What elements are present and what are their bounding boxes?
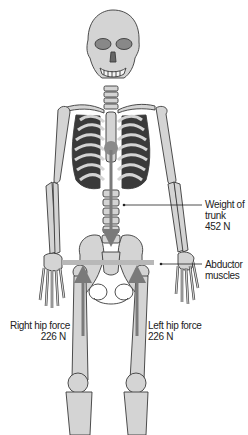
right-hip-force-label: Right hip force 226 N [10, 320, 66, 342]
trunk-label-line2: trunk [205, 210, 244, 221]
trunk-label-value: 452 N [205, 221, 244, 232]
right-arm [40, 106, 70, 308]
trunk-weight-label: Weight of trunk 452 N [205, 199, 244, 232]
trunk-label-line1: Weight of [205, 199, 244, 210]
right-hip-label-value: 226 N [10, 331, 66, 342]
abductor-label-line1: Abductor [205, 259, 243, 270]
abductor-label-line2: muscles [205, 270, 243, 281]
skull [87, 10, 139, 78]
pelvis [79, 235, 142, 304]
right-hip-label-line1: Right hip force [10, 320, 66, 331]
left-hip-label-value: 226 N [148, 331, 202, 342]
abductor-label: Abductor muscles [205, 259, 243, 281]
left-hip-force-label: Left hip force 226 N [148, 320, 202, 342]
left-clavicle [118, 104, 155, 113]
left-hip-label-line1: Left hip force [148, 320, 202, 331]
cervical-spine [104, 86, 118, 109]
abductor-muscle-bar [62, 260, 154, 265]
